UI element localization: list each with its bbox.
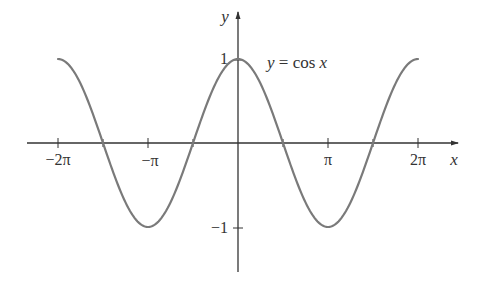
cosine-graph: −2π −π π 2π 1 −1 x y y = cos x [0,0,486,288]
x-axis-label: x [449,150,458,169]
y-tick-label-neg-1: −1 [211,219,228,236]
x-tick-label-2pi: 2π [410,151,426,168]
function-label: y = cos x [265,53,328,72]
x-tick-label-neg-2pi: −2π [45,151,70,168]
x-tick-label-pi: π [324,151,332,168]
x-tick-label-neg-pi: −π [141,152,158,169]
y-tick-label-1: 1 [220,50,228,67]
y-axis-label: y [219,7,229,26]
